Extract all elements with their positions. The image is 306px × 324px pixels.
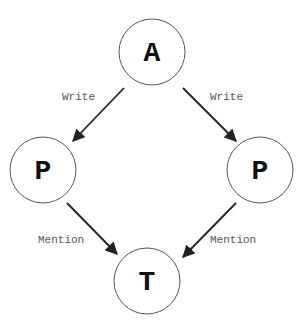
node-label-a: A [144,38,161,69]
arrow-icon [67,203,117,254]
edge-label-mention-left: Mention [38,234,84,246]
diagram-canvas: Write Write Mention Mention A P P T [0,0,306,324]
edge-a-to-p-left: Write [62,88,124,141]
node-p-left: P [10,137,76,203]
node-a: A [119,19,185,85]
edge-p-right-to-t: Mention [183,203,256,257]
node-label-p-right: P [252,156,269,187]
arrow-icon [183,203,236,257]
edge-label-mention-right: Mention [210,234,256,246]
node-label-p-left: P [35,156,52,187]
node-label-t: T [139,267,156,298]
edge-label-write-right: Write [210,91,243,103]
node-p-right: P [227,137,293,203]
edge-p-left-to-t: Mention [38,203,117,254]
node-t: T [114,248,180,314]
edge-a-to-p-right: Write [183,88,243,141]
edge-label-write-left: Write [62,91,95,103]
